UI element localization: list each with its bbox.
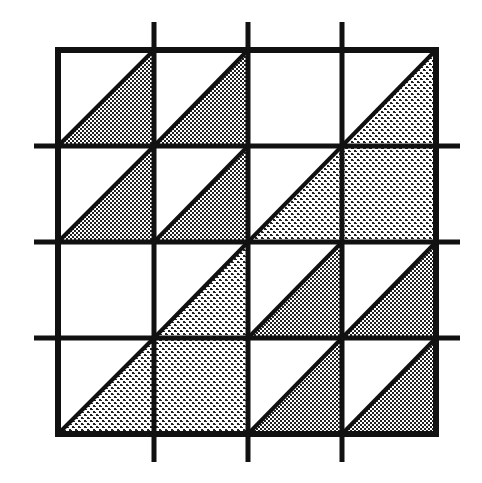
triangle-grid-diagram [0,0,482,483]
cell-r1-c3-square [342,146,436,242]
cell-r3-c1-square [154,338,248,434]
